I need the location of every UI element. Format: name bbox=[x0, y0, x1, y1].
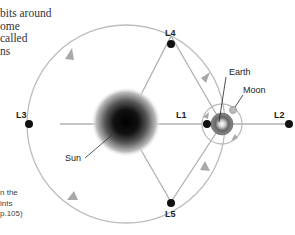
lagrange-point-l3 bbox=[25, 120, 33, 128]
lagrange-point-l4 bbox=[167, 40, 175, 48]
earth bbox=[211, 113, 233, 135]
lagrange-point-l5 bbox=[167, 199, 175, 207]
label-l1: L1 bbox=[176, 110, 187, 120]
lagrange-point-l1 bbox=[203, 120, 211, 128]
moon-leader-line bbox=[235, 95, 243, 107]
label-l3: L3 bbox=[16, 110, 27, 120]
label-l4: L4 bbox=[165, 28, 176, 38]
sun bbox=[91, 87, 161, 157]
orbit-arrow-icon bbox=[200, 161, 210, 171]
moon bbox=[230, 107, 237, 114]
orbit-arrow-icon bbox=[201, 72, 210, 83]
orbit-arrow-icon bbox=[67, 191, 78, 200]
label-l5: L5 bbox=[165, 209, 176, 219]
label-l2: L2 bbox=[274, 110, 285, 120]
lagrange-point-l2 bbox=[285, 120, 293, 128]
l5-earth-line bbox=[171, 124, 222, 202]
lagrange-diagram: L1 L2 L3 L4 L5 Sun Earth Moon bbox=[0, 0, 295, 235]
orbit-arrow-icon bbox=[65, 48, 74, 60]
label-moon: Moon bbox=[243, 85, 266, 95]
label-sun: Sun bbox=[65, 153, 81, 163]
label-earth: Earth bbox=[229, 67, 251, 77]
